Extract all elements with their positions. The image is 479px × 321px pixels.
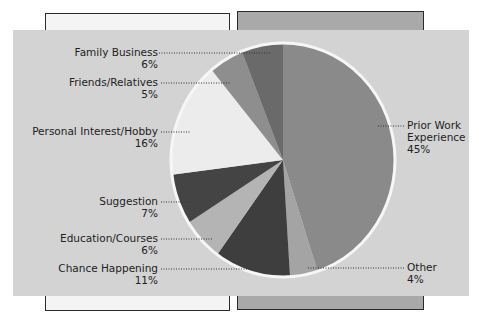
label-percent: 16% bbox=[32, 137, 158, 149]
label-percent: 4% bbox=[407, 273, 437, 285]
label-name-line2: Experience bbox=[407, 131, 466, 143]
label-percent: 11% bbox=[58, 274, 158, 286]
label-friends-relatives: Friends/Relatives 5% bbox=[69, 76, 158, 100]
label-name: Other bbox=[407, 261, 437, 273]
label-name: Personal Interest/Hobby bbox=[32, 125, 158, 137]
label-name: Family Business bbox=[75, 46, 158, 58]
label-personal-interest: Personal Interest/Hobby 16% bbox=[32, 125, 158, 149]
label-percent: 45% bbox=[407, 143, 466, 155]
label-name: Education/Courses bbox=[60, 232, 158, 244]
label-name: Chance Happening bbox=[58, 262, 158, 274]
label-name: Suggestion bbox=[99, 195, 158, 207]
label-name: Friends/Relatives bbox=[69, 76, 158, 88]
label-education-courses: Education/Courses 6% bbox=[60, 232, 158, 256]
label-percent: 6% bbox=[75, 58, 158, 70]
label-family-business: Family Business 6% bbox=[75, 46, 158, 70]
label-percent: 5% bbox=[69, 88, 158, 100]
label-percent: 7% bbox=[99, 207, 158, 219]
label-percent: 6% bbox=[60, 244, 158, 256]
label-chance-happening: Chance Happening 11% bbox=[58, 262, 158, 286]
label-suggestion: Suggestion 7% bbox=[99, 195, 158, 219]
label-name-line1: Prior Work bbox=[407, 119, 466, 131]
label-other: Other 4% bbox=[407, 261, 437, 285]
label-prior-work-experience: Prior Work Experience 45% bbox=[407, 119, 466, 155]
